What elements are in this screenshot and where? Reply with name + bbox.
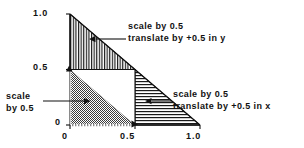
annotation-top: scale by 0.5 translate by +0.5 in y <box>128 20 226 44</box>
y-tick-label-1.0: 1.0 <box>33 8 48 19</box>
annotation-right-line1: scale by 0.5 <box>173 88 271 100</box>
annotation-right-line2: translate by +0.5 in x <box>173 100 271 112</box>
y-tick-label-0.5: 0.5 <box>33 62 48 73</box>
annotation-right: scale by 0.5 translate by +0.5 in x <box>173 88 271 112</box>
annotation-top-line1: scale by 0.5 <box>128 20 226 32</box>
annotation-top-line2: translate by +0.5 in y <box>128 32 226 44</box>
annotation-left-line1: scale <box>6 90 34 102</box>
x-tick-label-1.0: 1.0 <box>186 131 201 142</box>
y-tick-label-0: 0 <box>55 117 61 128</box>
annotation-left: scale by 0.5 <box>6 90 34 114</box>
x-tick-label-0: 0 <box>62 131 68 142</box>
annotation-left-line2: by 0.5 <box>6 102 34 114</box>
diagram-root: 1.0 0.5 0 0 0.5 1.0 scale by 0.5 transla… <box>0 0 304 148</box>
x-tick-label-0.5: 0.5 <box>120 131 135 142</box>
